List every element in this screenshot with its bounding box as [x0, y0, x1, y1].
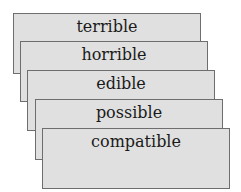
- word-card-stack: terrible horrible edible possible compat…: [0, 0, 241, 192]
- card-label: terrible: [14, 14, 200, 40]
- card-label: edible: [28, 71, 214, 97]
- card-label: compatible: [43, 129, 229, 155]
- card-label: possible: [36, 100, 222, 126]
- word-card-compatible: compatible: [42, 128, 230, 189]
- card-label: horrible: [21, 42, 207, 68]
